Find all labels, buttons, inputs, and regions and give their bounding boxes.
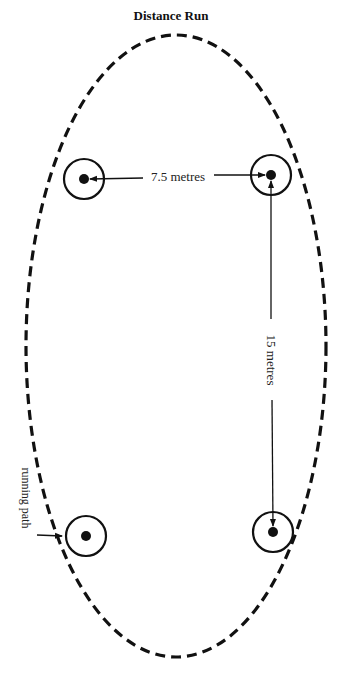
horizontal-distance-label: 7.5 metres: [151, 169, 205, 184]
vertical-dimension: 15 metres: [264, 181, 279, 526]
cone-bottom-left: [66, 516, 106, 556]
running-path-ellipse: [26, 35, 326, 657]
vertical-distance-label: 15 metres: [264, 335, 279, 386]
distance-run-diagram: 7.5 metres 15 metres running path: [0, 0, 342, 673]
horizontal-dimension: 7.5 metres: [90, 169, 265, 184]
running-path-label: running path: [19, 468, 33, 529]
